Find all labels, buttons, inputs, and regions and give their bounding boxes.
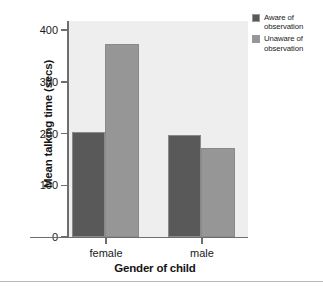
legend-swatch-unaware-icon — [252, 35, 260, 43]
legend-label-unaware: Unaware ofobservation — [264, 34, 303, 52]
y-axis-line — [67, 21, 69, 238]
y-tick-label-100: 100 — [0, 179, 58, 191]
bar-female-aware — [72, 132, 105, 237]
plot-area — [68, 21, 248, 237]
bar-male-aware — [168, 135, 201, 237]
y-tick-label-400: 400 — [0, 24, 58, 36]
legend-label-unaware-line2: observation — [264, 44, 303, 53]
y-axis-title: Mean talking time (secs) — [42, 24, 54, 224]
x-axis-title: Gender of child — [0, 262, 310, 274]
legend-label-aware: Aware ofobservation — [264, 13, 303, 31]
bar-male-unaware — [201, 148, 235, 237]
y-tick-label-300: 300 — [0, 76, 58, 88]
legend-label-unaware-line1: Unaware of — [264, 34, 303, 43]
chart-legend: Aware ofobservation Unaware ofobservatio… — [252, 13, 323, 56]
plot-inner — [68, 21, 248, 237]
bar-chart-figure: Mean talking time (secs) 400 300 200 100… — [0, 0, 323, 290]
legend-item-aware: Aware ofobservation — [252, 13, 323, 31]
x-tick-label-female: female — [66, 247, 146, 259]
y-tick-label-200: 200 — [0, 128, 58, 140]
bottom-divider — [0, 281, 323, 282]
x-axis-line — [30, 237, 248, 239]
x-tick-mark-male — [201, 237, 203, 244]
legend-label-aware-line2: observation — [264, 22, 303, 31]
legend-swatch-aware-icon — [252, 14, 260, 22]
x-tick-label-male: male — [162, 247, 242, 259]
bar-female-unaware — [105, 44, 139, 237]
legend-item-unaware: Unaware ofobservation — [252, 34, 323, 52]
legend-label-aware-line1: Aware of — [264, 13, 294, 22]
x-tick-mark-female — [105, 237, 107, 244]
